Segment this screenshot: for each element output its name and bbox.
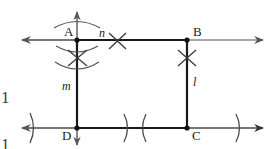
- geometry-figure: A B C D n l m 1 1: [0, 0, 272, 149]
- line-label-m: m: [62, 80, 71, 92]
- line-label-n: n: [99, 27, 105, 39]
- vertex-label-d: D: [62, 129, 71, 142]
- vertex-dot-b: [184, 37, 189, 42]
- vertex-dot-c: [184, 125, 189, 130]
- vertex-label-c: C: [192, 129, 201, 142]
- edge-fragment-upper: 1: [1, 89, 10, 106]
- vertex-dot-a: [74, 37, 79, 42]
- vertex-label-a: A: [64, 25, 73, 38]
- geometry-canvas: [0, 0, 272, 149]
- edge-fragment-lower: 1: [1, 136, 10, 149]
- vertex-label-b: B: [193, 25, 202, 38]
- line-label-l: l: [193, 76, 196, 88]
- vertex-dot-d: [74, 125, 79, 130]
